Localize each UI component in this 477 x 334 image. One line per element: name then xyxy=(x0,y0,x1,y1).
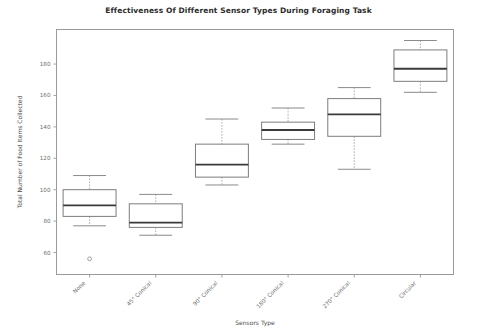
y-tick-label: 160 xyxy=(40,92,51,98)
box-plot-5 xyxy=(328,88,381,170)
box-plot-6 xyxy=(394,40,447,92)
box-plot-1 xyxy=(63,176,116,261)
x-tick-label: 270° Conical xyxy=(321,280,351,310)
boxplot-canvas: 6080100120140160180 None45° Conical90° C… xyxy=(0,0,477,334)
box-series xyxy=(63,40,447,260)
box-iqr xyxy=(63,190,116,217)
x-tick-label: 180° Conical xyxy=(255,280,285,310)
box-plot-3 xyxy=(195,119,248,185)
x-tick-label: 45° Conical xyxy=(125,280,152,307)
box-plot-2 xyxy=(129,194,182,235)
chart-figure: Effectiveness Of Different Sensor Types … xyxy=(0,0,477,334)
x-axis-label: Sensors Type xyxy=(235,319,275,327)
box-iqr xyxy=(129,204,182,228)
x-tick-label: Circular xyxy=(398,279,418,299)
box-plot-4 xyxy=(262,108,315,144)
x-axis-ticks: None45° Conical90° Conical180° Conical27… xyxy=(72,275,421,310)
y-tick-label: 180 xyxy=(40,61,51,67)
y-tick-label: 140 xyxy=(40,124,51,130)
x-tick-label: None xyxy=(72,280,87,295)
outlier-point xyxy=(88,257,92,261)
box-iqr xyxy=(328,99,381,137)
y-tick-label: 80 xyxy=(43,218,51,224)
y-tick-label: 60 xyxy=(43,250,51,256)
y-axis-ticks: 6080100120140160180 xyxy=(40,61,57,255)
box-iqr xyxy=(195,144,248,177)
box-iqr xyxy=(394,50,447,81)
y-axis-label: Total Number of Food Items Collected xyxy=(16,95,23,209)
y-tick-label: 100 xyxy=(40,187,51,193)
y-tick-label: 120 xyxy=(40,155,51,161)
x-tick-label: 90° Conical xyxy=(192,280,219,307)
